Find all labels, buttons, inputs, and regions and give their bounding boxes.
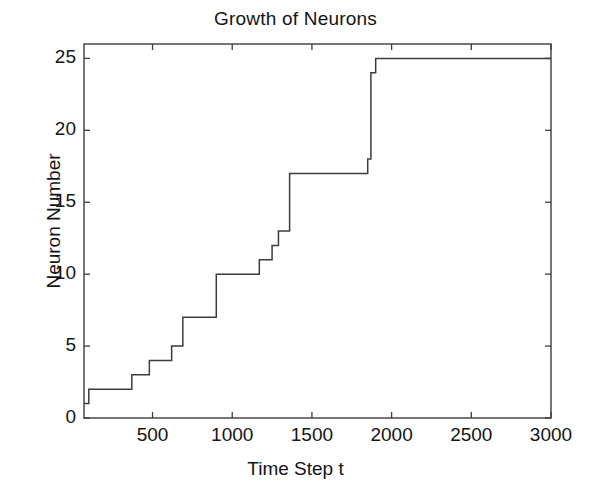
y-tick-label: 5 [16,334,76,356]
y-tick-label: 10 [16,262,76,284]
x-tick-label: 3000 [511,424,591,446]
x-axis-ticks [153,44,551,418]
chart-figure: Growth of Neurons Neuron Number Time Ste… [0,0,591,493]
y-axis-ticks [84,58,551,418]
y-tick-label: 0 [16,406,76,428]
x-tick-label: 1500 [272,424,352,446]
x-tick-label: 2000 [352,424,432,446]
y-tick-label: 15 [16,190,76,212]
x-tick-label: 500 [113,424,193,446]
plot-area [0,0,591,493]
x-tick-label: 2500 [431,424,511,446]
x-tick-label: 1000 [192,424,272,446]
y-tick-label: 25 [16,46,76,68]
y-tick-label: 20 [16,118,76,140]
data-series-line [84,58,551,403]
axes-frame [84,44,551,418]
